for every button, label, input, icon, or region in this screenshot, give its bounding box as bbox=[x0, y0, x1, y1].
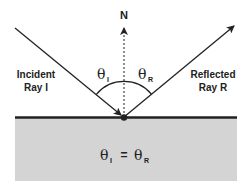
incident-ray-label-line2: Ray I bbox=[24, 82, 48, 93]
equation-lhs-subscript: I bbox=[110, 157, 112, 164]
theta-reflected-label: θ R bbox=[138, 66, 153, 83]
reflected-ray-label-line1: Reflected bbox=[190, 69, 235, 80]
theta-incident-label: θ I bbox=[97, 66, 109, 83]
equation-lhs-theta: θ bbox=[100, 147, 108, 163]
reflection-law-equation: θ I = θ R bbox=[100, 147, 149, 164]
theta-symbol: θ bbox=[97, 66, 105, 82]
point-of-incidence bbox=[121, 114, 127, 120]
equation-rhs-subscript: R bbox=[144, 157, 149, 164]
theta-reflected-subscript: R bbox=[148, 76, 153, 83]
theta-incident-subscript: I bbox=[107, 76, 109, 83]
reflection-diagram: N Incident Ray I Reflected Ray R θ I θ R… bbox=[0, 0, 249, 189]
equation-equals: = bbox=[120, 148, 127, 162]
equation-rhs-theta: θ bbox=[134, 147, 142, 163]
incident-ray-label-line1: Incident bbox=[17, 69, 56, 80]
normal-label: N bbox=[120, 9, 128, 21]
theta-symbol: θ bbox=[138, 66, 146, 82]
reflected-ray-label-line2: Ray R bbox=[199, 82, 228, 93]
